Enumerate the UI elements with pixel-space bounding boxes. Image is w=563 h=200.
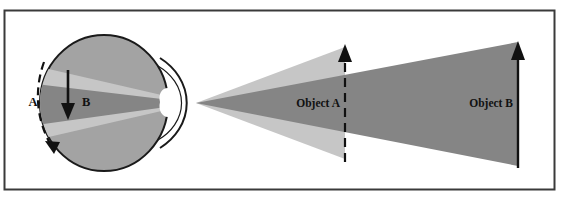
eye-optics-diagram: A B Object A Object B — [0, 0, 563, 200]
label-b: B — [82, 95, 90, 109]
figure-container: A B Object A Object B — [0, 0, 563, 200]
label-object-a: Object A — [296, 97, 340, 110]
label-object-b: Object B — [469, 97, 513, 110]
lens-shape — [159, 88, 177, 117]
label-a: A — [28, 95, 37, 109]
